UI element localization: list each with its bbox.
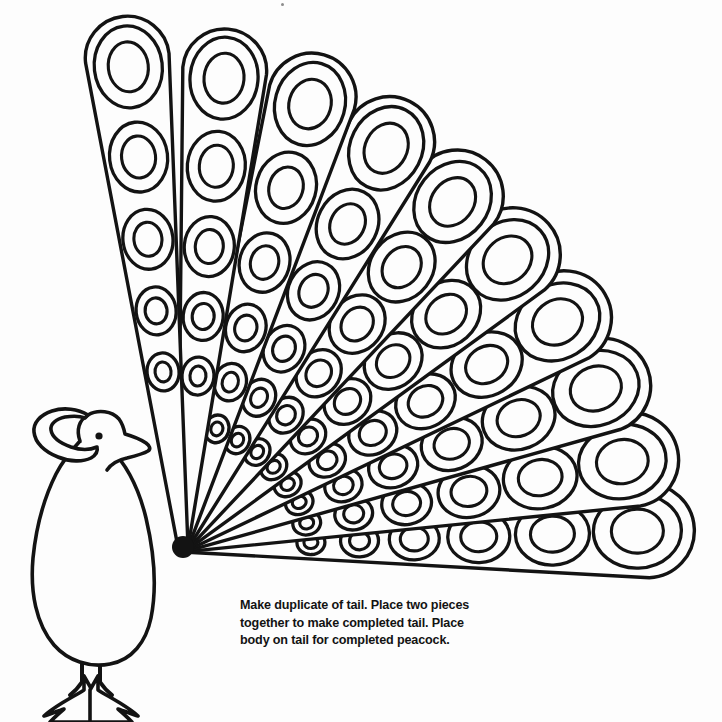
eye-inner-ring — [460, 521, 497, 552]
template-sheet: Make duplicate of tail. Place two pieces… — [0, 0, 722, 722]
eye-inner-ring — [191, 303, 215, 331]
tail-fan-group[interactable] — [85, 16, 694, 578]
left-leg — [70, 659, 82, 695]
instruction-caption: Make duplicate of tail. Place two pieces… — [240, 597, 560, 650]
scan-speck — [281, 3, 284, 6]
right-foot — [90, 676, 138, 722]
left-foot — [44, 676, 92, 722]
bird-torso — [32, 441, 154, 665]
eye-inner-ring — [611, 508, 665, 554]
eye-inner-ring — [530, 515, 575, 553]
peacock-body-group[interactable] — [32, 409, 154, 722]
bird-eye — [95, 432, 102, 439]
feather-eye — [180, 356, 215, 397]
eye-inner-ring — [144, 297, 169, 325]
tail-hub — [172, 536, 194, 558]
eye-inner-ring — [189, 365, 207, 386]
eye-inner-ring — [194, 228, 225, 264]
eye-inner-ring — [154, 361, 172, 383]
